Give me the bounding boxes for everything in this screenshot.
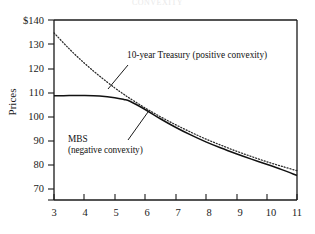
mbs-annotation: MBS (negative convexity): [68, 134, 143, 155]
treasury-leader-line: [108, 65, 128, 89]
mbs-annotation-line2: (negative convexity): [68, 145, 143, 156]
convexity-chart-figure: CONVEXITY Prices $140 130 120 110 100 90…: [0, 0, 315, 234]
chart-plot-area: [0, 0, 315, 234]
mbs-annotation-line1: MBS: [68, 134, 143, 145]
x-axis-ticks: [54, 194, 297, 200]
treasury-annotation: 10-year Treasury (positive convexity): [127, 50, 267, 61]
y-axis-ticks: [48, 20, 54, 200]
axis-frame: [54, 20, 297, 200]
